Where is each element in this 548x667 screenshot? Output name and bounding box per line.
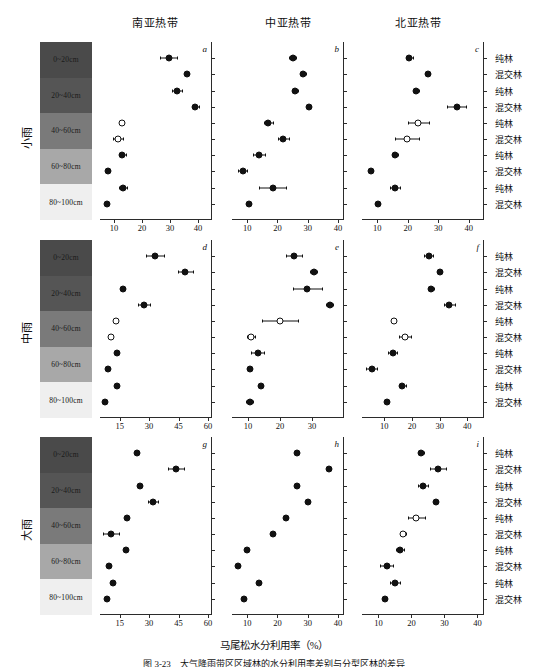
depth-band-2: 20~40cm bbox=[40, 473, 92, 509]
marker-filled bbox=[254, 350, 261, 357]
forest-type-label: 纯林 bbox=[495, 447, 513, 460]
marker-filled bbox=[244, 547, 251, 554]
plot-area-a: a bbox=[100, 42, 212, 220]
marker-filled bbox=[152, 253, 159, 260]
x-tick bbox=[247, 615, 248, 618]
forest-type-label: 纯林 bbox=[495, 52, 513, 65]
forest-type-label: 混交林 bbox=[495, 363, 522, 376]
forest-type-label: 纯林 bbox=[495, 116, 513, 129]
error-bar-cap bbox=[178, 271, 179, 274]
marker-filled bbox=[119, 184, 126, 191]
x-tick bbox=[248, 418, 249, 421]
error-bar-cap bbox=[397, 352, 398, 355]
y-tick bbox=[344, 402, 347, 403]
error-bar-cap bbox=[253, 400, 254, 403]
right-axis-line bbox=[343, 240, 344, 418]
right-axis-line bbox=[211, 437, 212, 615]
x-tick-label: 30 bbox=[308, 421, 317, 431]
x-tick-label: 15 bbox=[115, 618, 124, 628]
x-tick bbox=[247, 220, 248, 223]
figure-root: 南亚热带 中亚热带 北亚热带 小雨 中雨 大雨 0~20cm20~40cm40~… bbox=[0, 0, 548, 667]
error-bar-cap bbox=[466, 105, 467, 108]
marker-filled bbox=[256, 152, 263, 159]
y-tick bbox=[484, 518, 487, 519]
y-tick bbox=[484, 171, 487, 172]
depth-gradient-row3: 0~20cm20~40cm40~60cm60~80cm80~100cm bbox=[40, 437, 92, 615]
marker-filled bbox=[174, 87, 181, 94]
error-bar-cap bbox=[293, 287, 294, 290]
y-tick bbox=[484, 204, 487, 205]
depth-band-label: 60~80cm bbox=[51, 360, 81, 369]
error-bar-cap bbox=[298, 319, 299, 322]
marker-filled bbox=[269, 184, 276, 191]
error-bar-cap bbox=[168, 468, 169, 471]
marker-filled bbox=[294, 450, 301, 457]
y-tick bbox=[212, 566, 215, 567]
depth-band-2: 20~40cm bbox=[40, 276, 92, 312]
x-tick-label: 10 bbox=[110, 223, 119, 233]
marker-filled bbox=[304, 498, 311, 505]
plot-area-g: g bbox=[100, 437, 212, 615]
y-tick bbox=[212, 171, 215, 172]
chart-panel-g: g bbox=[100, 437, 212, 615]
right-axis-line bbox=[343, 42, 344, 220]
y-tick bbox=[212, 534, 215, 535]
y-tick bbox=[344, 369, 347, 370]
x-tick bbox=[312, 418, 313, 421]
marker-filled bbox=[374, 200, 381, 207]
y-tick bbox=[212, 204, 215, 205]
x-tick bbox=[338, 615, 339, 618]
x-tick bbox=[277, 615, 278, 618]
marker-filled bbox=[105, 168, 112, 175]
marker-filled bbox=[418, 450, 425, 457]
forest-type-label: 混交林 bbox=[495, 560, 522, 573]
marker-filled bbox=[289, 55, 296, 62]
error-bar-cap bbox=[366, 368, 367, 371]
error-bar-cap bbox=[127, 186, 128, 189]
x-tick bbox=[149, 418, 150, 421]
x-tick-label: 10 bbox=[374, 618, 383, 628]
error-bar-cap bbox=[103, 533, 104, 536]
y-tick bbox=[484, 353, 487, 354]
marker-filled bbox=[436, 269, 443, 276]
error-bar-cap bbox=[455, 303, 456, 306]
right-axis-line bbox=[483, 437, 484, 615]
x-tick bbox=[277, 220, 278, 223]
x-axis-line bbox=[100, 417, 212, 418]
y-tick bbox=[484, 256, 487, 257]
y-tick bbox=[212, 369, 215, 370]
marker-filled bbox=[325, 466, 332, 473]
x-tick-label: 45 bbox=[174, 421, 183, 431]
y-tick bbox=[212, 256, 215, 257]
y-tick bbox=[344, 91, 347, 92]
error-bar-cap bbox=[150, 303, 151, 306]
depth-band-3: 40~60cm bbox=[40, 113, 92, 149]
x-tick-label: 20 bbox=[407, 618, 416, 628]
marker-filled bbox=[165, 55, 172, 62]
forest-type-label: 混交林 bbox=[495, 165, 522, 178]
y-tick bbox=[212, 353, 215, 354]
x-axis-line bbox=[232, 219, 344, 220]
forest-type-label: 混交林 bbox=[495, 100, 522, 113]
y-tick bbox=[212, 155, 215, 156]
marker-filled bbox=[291, 87, 298, 94]
marker-filled bbox=[391, 152, 398, 159]
forest-type-label: 纯林 bbox=[495, 250, 513, 263]
error-bar-cap bbox=[119, 533, 120, 536]
error-bar-cap bbox=[444, 303, 445, 306]
y-tick bbox=[344, 518, 347, 519]
y-tick bbox=[484, 453, 487, 454]
right-axis-line bbox=[211, 240, 212, 418]
marker-filled bbox=[391, 184, 398, 191]
depth-band-label: 60~80cm bbox=[51, 162, 81, 171]
marker-filled bbox=[382, 595, 389, 602]
error-bar-cap bbox=[419, 138, 420, 141]
error-bar-cap bbox=[199, 105, 200, 108]
error-bar-cap bbox=[302, 255, 303, 258]
forest-type-label: 混交林 bbox=[495, 298, 522, 311]
x-tick bbox=[170, 220, 171, 223]
x-tick bbox=[120, 615, 121, 618]
x-tick-label: 20 bbox=[273, 618, 282, 628]
y-tick bbox=[212, 502, 215, 503]
error-bar-cap bbox=[408, 121, 409, 124]
